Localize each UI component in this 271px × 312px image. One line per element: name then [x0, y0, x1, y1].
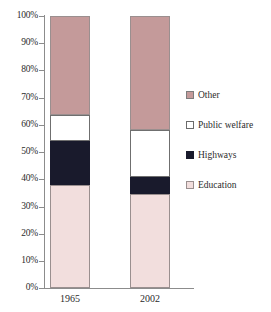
bar-2002 — [130, 16, 170, 288]
y-tick-mark — [39, 16, 45, 17]
bar-segment-other — [50, 16, 90, 115]
y-tick-label: 60% — [0, 120, 38, 130]
bar-segment-highways — [130, 177, 170, 194]
y-tick-mark — [39, 43, 45, 44]
stacked-bar-chart: 100% 90% 80% 70% 60% 50% 40% 30% 20% 10%… — [0, 0, 271, 312]
y-tick-label: 100% — [0, 11, 38, 21]
legend-label-other: Other — [198, 90, 220, 100]
y-tick-mark — [39, 288, 45, 289]
y-tick-mark — [39, 70, 45, 71]
y-tick-label: 90% — [0, 38, 38, 48]
x-axis-label-2002: 2002 — [120, 293, 180, 305]
y-tick-mark — [39, 261, 45, 262]
y-tick-label: 30% — [0, 202, 38, 212]
education-swatch-icon — [186, 181, 194, 189]
y-tick-mark — [39, 234, 45, 235]
legend-item-highways[interactable]: Highways — [186, 148, 237, 162]
bar-segment-highways — [50, 141, 90, 185]
legend-item-public-welfare[interactable]: Public welfare — [186, 118, 253, 132]
bar-segment-other — [130, 16, 170, 130]
legend-item-other[interactable]: Other — [186, 88, 220, 102]
y-tick-label: 0% — [0, 283, 38, 293]
y-tick-mark — [39, 98, 45, 99]
legend-label-public-welfare: Public welfare — [198, 120, 253, 130]
y-tick-mark — [39, 152, 45, 153]
x-axis-label-1965: 1965 — [40, 293, 100, 305]
y-tick-label: 70% — [0, 93, 38, 103]
y-tick-label: 20% — [0, 229, 38, 239]
legend-label-highways: Highways — [198, 150, 237, 160]
bar-segment-education — [130, 194, 170, 288]
legend-label-education: Education — [198, 180, 237, 190]
highways-swatch-icon — [186, 151, 194, 159]
bar-segment-public-welfare — [50, 115, 90, 141]
bar-segment-education — [50, 185, 90, 288]
y-tick-mark — [39, 179, 45, 180]
public-welfare-swatch-icon — [186, 121, 194, 129]
y-tick-label: 80% — [0, 65, 38, 75]
y-tick-label: 10% — [0, 256, 38, 266]
y-tick-mark — [39, 125, 45, 126]
y-tick-label: 50% — [0, 147, 38, 157]
other-swatch-icon — [186, 91, 194, 99]
bar-segment-public-welfare — [130, 130, 170, 177]
x-axis-line — [44, 288, 194, 289]
y-tick-mark — [39, 207, 45, 208]
bar-1965 — [50, 16, 90, 288]
y-tick-label: 40% — [0, 174, 38, 184]
legend-item-education[interactable]: Education — [186, 178, 237, 192]
